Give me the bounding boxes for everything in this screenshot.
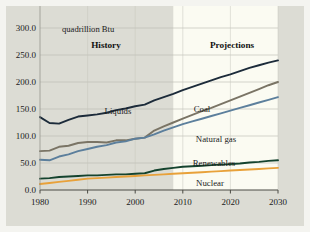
- y-tick-label: 200.0: [16, 77, 37, 87]
- projections-period-label: Projections: [210, 40, 255, 50]
- series-label-liquids: Liquids: [105, 106, 132, 116]
- x-tick-label: 2000: [126, 197, 145, 207]
- energy-consumption-line-chart: 0.050.0100.0150.0200.0250.0300.0 1980199…: [6, 6, 304, 226]
- y-axis-tick-labels: 0.050.0100.0150.0200.0250.0300.0: [16, 23, 37, 195]
- x-tick-label: 2010: [174, 197, 193, 207]
- y-tick-label: 300.0: [16, 23, 37, 33]
- series-label-renewables: Renewables: [193, 158, 236, 168]
- x-tick-label: 1980: [31, 197, 50, 207]
- chart-figure: 0.050.0100.0150.0200.0250.0300.0 1980199…: [0, 0, 310, 232]
- y-tick-label: 0.0: [25, 185, 37, 195]
- units-label: quadrillion Btu: [62, 24, 115, 34]
- history-period-label: History: [91, 40, 121, 50]
- x-tick-label: 2020: [221, 197, 240, 207]
- y-tick-label: 100.0: [16, 131, 37, 141]
- series-label-nuclear: Nuclear: [196, 178, 224, 188]
- series-label-natural-gas: Natural gas: [196, 134, 237, 144]
- y-tick-label: 50.0: [20, 158, 36, 168]
- x-axis-tick-labels: 198019902000201020202030: [31, 197, 288, 207]
- y-tick-label: 250.0: [16, 50, 37, 60]
- y-tick-label: 150.0: [16, 104, 37, 114]
- series-label-coal: Coal: [194, 104, 211, 114]
- x-tick-label: 2030: [269, 197, 288, 207]
- x-tick-label: 1990: [79, 197, 98, 207]
